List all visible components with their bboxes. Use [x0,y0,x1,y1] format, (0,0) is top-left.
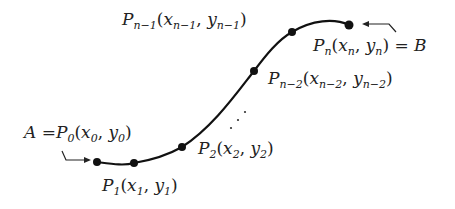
subscript: n−1 [133,19,156,32]
diagram-canvas: A =P0(x0, y0) P1(x1, y1) P2(x2, y2) Pn−2… [0,0,455,209]
p-letter: P [268,68,279,88]
x-var: x [81,122,91,142]
y-var: y [108,122,118,142]
label-pn2: Pn−2(xn−2, yn−2) [268,70,393,90]
p-letter: P [313,35,324,55]
arrow-to-b-icon [365,24,396,32]
comma: , [196,9,201,29]
comma: , [342,68,347,88]
ellipsis-dot [230,127,232,129]
label-a: A [24,122,36,142]
paren: ) [386,68,393,88]
paren: ) [171,175,178,195]
label-p0: A =P0(x0, y0) [24,124,132,144]
x-var: x [127,175,137,195]
p-letter: P [198,138,209,158]
p-letter: P [56,122,67,142]
point-p1-dot [130,159,138,167]
comma: , [98,122,103,142]
label-p1: P1(x1, y1) [102,177,178,197]
subscript: n [324,45,331,58]
paren: ) [125,122,132,142]
y-var: y [366,35,376,55]
ellipsis-dot [237,119,239,121]
label-b: B [414,35,427,55]
paren: ) [267,138,274,158]
ellipsis-dot [244,111,246,113]
x-var: x [338,35,348,55]
x-var: x [163,9,173,29]
y-var: y [251,138,261,158]
y-var: y [207,9,217,29]
point-p0-dot [93,158,101,166]
subscript: n−2 [319,78,342,91]
label-pn: Pn(xn, yn) = B [313,37,427,57]
subscript: 2 [233,148,240,161]
y-var: y [353,68,363,88]
label-p2: P2(x2, y2) [198,140,274,160]
subscript: n−2 [279,78,302,91]
comma: , [144,175,149,195]
subscript: n−2 [363,78,386,91]
comma: , [355,35,360,55]
arrowhead-b-icon [362,21,369,27]
x-var: x [309,68,319,88]
subscript: 1 [137,185,144,198]
subscript: n [348,45,355,58]
paren: ) [382,35,389,55]
subscript: n−1 [173,19,196,32]
p-letter: P [122,9,133,29]
point-pn1-dot [288,28,296,36]
y-var: y [155,175,165,195]
point-p2-dot [178,143,186,151]
point-pn2-dot [250,67,258,75]
comma: , [240,138,245,158]
subscript: n−1 [217,19,240,32]
subscript: 0 [91,132,98,145]
equals-sign: = [394,35,408,55]
point-pn-dot [345,21,354,30]
subscript: 0 [118,132,125,145]
label-pn1: Pn−1(xn−1, yn−1) [122,11,247,31]
arrowhead-a-icon [84,157,91,163]
p-letter: P [102,175,113,195]
equals-sign: = [42,122,56,142]
x-var: x [223,138,233,158]
paren: ) [240,9,247,29]
